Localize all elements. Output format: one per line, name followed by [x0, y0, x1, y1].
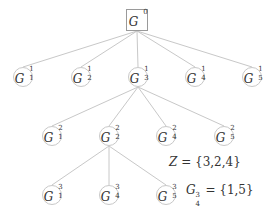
g-variable: G — [186, 183, 196, 197]
node-g3-5: G35 — [156, 185, 176, 205]
node-g3-4: G34 — [99, 185, 119, 205]
g34-set-annotation: G34 = {1,5} — [186, 183, 254, 197]
node-g2-2: G22 — [99, 126, 119, 146]
node-g1-5: G15 — [242, 67, 262, 87]
z-value: = {3,2,4} — [177, 155, 241, 169]
node-g1-3: G13 — [128, 67, 148, 87]
z-set-annotation: Z = {3,2,4} — [169, 155, 241, 169]
node-g3-1: G31 — [42, 185, 62, 205]
node-g1-1: G11 — [13, 67, 33, 87]
node-g1-2: G12 — [71, 67, 91, 87]
g-value: = {1,5} — [202, 183, 254, 197]
node-g2-1: G21 — [42, 126, 62, 146]
node-g1-4: G14 — [185, 67, 205, 87]
node-label: G — [129, 15, 139, 29]
node-g2-4: G24 — [156, 126, 176, 146]
root-node-g0: G0 — [126, 9, 148, 31]
node-g2-5: G25 — [214, 126, 234, 146]
